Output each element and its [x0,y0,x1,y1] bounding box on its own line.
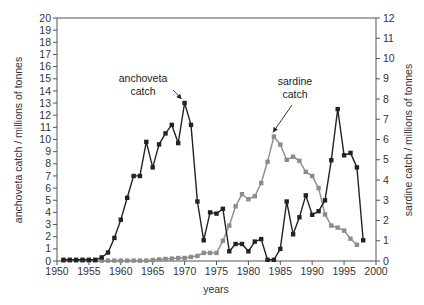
left-tick-label: 2 [45,230,51,242]
data-point-marker [310,213,314,217]
arrowhead-icon [273,127,278,133]
left-tick-label: 12 [39,109,51,121]
data-point-marker [253,194,257,198]
data-point-marker [170,256,174,260]
data-point-marker [106,258,110,262]
data-point-marker [316,186,320,190]
left-tick-label: 13 [39,97,51,109]
data-point-marker [131,174,135,178]
left-tick-label: 17 [39,48,51,60]
data-point-marker [157,142,161,146]
annotation-label: sardine [278,75,313,87]
x-axis: 1950195519601965197019751980198519901995… [45,261,388,277]
data-point-marker [208,210,212,214]
data-point-marker [278,247,282,251]
left-tick-label: 14 [39,85,51,97]
right-y-axis: 0123456789101112 [376,12,395,267]
right-tick-label: 4 [383,174,389,186]
data-point-marker [189,255,193,259]
series-line [63,137,357,261]
data-point-marker [68,258,72,262]
data-point-marker [323,198,327,202]
data-point-marker [361,238,365,242]
series-line [63,103,363,260]
anchoveta-catch-series [61,101,365,262]
data-point-marker [176,256,180,260]
data-point-marker [233,242,237,246]
left-tick-label: 16 [39,60,51,72]
data-point-marker [323,212,327,216]
series-layer [61,101,365,263]
x-tick-label: 1960 [109,265,133,277]
right-tick-label: 5 [383,153,389,165]
data-point-marker [265,258,269,262]
data-point-marker [227,249,231,253]
left-tick-label: 6 [45,182,51,194]
x-tick-label: 1975 [205,265,229,277]
data-point-marker [151,258,155,262]
x-tick-label: 1965 [141,265,165,277]
data-point-marker [125,258,129,262]
left-tick-label: 19 [39,24,51,36]
data-point-marker [304,170,308,174]
x-tick-label: 2000 [364,265,388,277]
data-point-marker [61,258,65,262]
data-point-marker [138,258,142,262]
annotation-sardine: sardinecatch [273,75,312,132]
data-point-marker [138,174,142,178]
data-point-marker [176,141,180,145]
x-tick-label: 1955 [77,265,101,277]
data-point-marker [310,174,314,178]
right-tick-label: 8 [383,93,389,105]
right-y-axis-title: sardine catch / millions of tonnes [402,64,414,216]
right-tick-label: 3 [383,194,389,206]
x-tick-label: 1970 [173,265,197,277]
right-tick-label: 10 [383,52,395,64]
data-point-marker [259,237,263,241]
annotation-label: catch [130,85,155,97]
x-tick-label: 1980 [237,265,261,277]
right-tick-label: 9 [383,72,389,84]
data-point-marker [291,232,295,236]
left-tick-label: 11 [40,121,51,133]
x-axis-title: years [203,283,229,295]
data-point-marker [329,158,333,162]
data-point-marker [195,254,199,258]
data-point-marker [182,101,186,105]
x-tick-label: 1985 [269,265,293,277]
left-tick-label: 7 [45,170,51,182]
annotation-arrow [273,105,292,132]
x-tick-label: 1950 [45,265,69,277]
data-point-marker [100,255,104,259]
data-point-marker [106,250,110,254]
data-point-marker [93,258,97,262]
left-tick-label: 15 [39,72,51,84]
data-point-marker [144,140,148,144]
data-point-marker [119,258,123,262]
left-tick-label: 8 [45,157,51,169]
data-point-marker [202,251,206,255]
data-point-marker [163,131,167,135]
data-point-marker [297,159,301,163]
left-y-axis-title: anchoveta catch / millions of tonnes [12,57,24,223]
data-point-marker [253,239,257,243]
data-point-marker [87,258,91,262]
data-point-marker [112,258,116,262]
data-point-marker [355,243,359,247]
data-point-marker [265,160,269,164]
data-point-marker [170,123,174,127]
data-point-marker [336,107,340,111]
data-point-marker [240,242,244,246]
right-tick-label: 7 [383,113,389,125]
data-point-marker [74,258,78,262]
right-tick-label: 2 [383,214,389,226]
right-tick-label: 6 [383,133,389,145]
data-point-marker [278,142,282,146]
data-point-marker [214,251,218,255]
data-point-marker [304,193,308,197]
data-point-marker [246,249,250,253]
dual-axis-line-chart: 01234567891011121314151617181920 0123456… [0,0,424,305]
x-tick-label: 1995 [332,265,356,277]
data-point-marker [316,209,320,213]
left-tick-label: 10 [39,133,51,145]
